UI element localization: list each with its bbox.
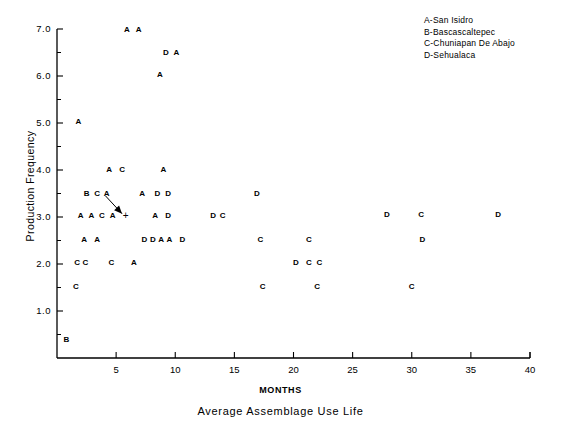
data-point: A [104, 166, 114, 174]
x-tick-label: 5 [101, 364, 131, 375]
data-point: A [134, 26, 144, 34]
y-tick-label: 1.0 [11, 305, 51, 316]
data-point: D [163, 212, 173, 220]
x-tick-label: 10 [160, 364, 190, 375]
data-point: A [129, 259, 139, 267]
y-tick-label: 6.0 [11, 70, 51, 81]
data-point: C [304, 236, 314, 244]
data-point: C [218, 212, 228, 220]
data-point: D [161, 49, 171, 57]
data-point: B [61, 336, 71, 344]
data-point: C [304, 259, 314, 267]
x-tick-label: 25 [338, 364, 368, 375]
x-tick-label: 30 [397, 364, 427, 375]
data-point: C [97, 212, 107, 220]
axes-lines [57, 29, 530, 358]
data-point: A [137, 190, 147, 198]
data-point: A [108, 212, 118, 220]
data-point: C [258, 283, 268, 291]
y-tick-label: 5.0 [11, 117, 51, 128]
data-point: C [80, 259, 90, 267]
data-point: D [252, 190, 262, 198]
data-point: C [106, 259, 116, 267]
data-point: A [164, 236, 174, 244]
data-point: C [407, 283, 417, 291]
data-point: C [416, 211, 426, 219]
data-point: C [312, 283, 322, 291]
data-point: A [171, 49, 181, 57]
y-tick-label: 7.0 [11, 23, 51, 34]
x-axis-title: MONTHS [0, 385, 561, 395]
data-point: C [117, 166, 127, 174]
data-point: A [122, 26, 132, 34]
data-point: B [82, 190, 92, 198]
data-point: D [153, 190, 163, 198]
data-point: C [71, 283, 81, 291]
highlight-marker: + [120, 211, 132, 221]
y-tick-label: 2.0 [11, 258, 51, 269]
data-point: A [73, 118, 83, 126]
x-tick-label: 20 [279, 364, 309, 375]
x-tick-label: 15 [219, 364, 249, 375]
data-point: A [79, 236, 89, 244]
data-point: A [102, 190, 112, 198]
x-axis-subtitle: Average Assemblage Use Life [0, 405, 561, 417]
data-point: D [291, 259, 301, 267]
data-point: A [86, 212, 96, 220]
data-point: A [92, 236, 102, 244]
x-tick-label: 35 [456, 364, 486, 375]
data-point: D [493, 211, 503, 219]
data-point: A [158, 166, 168, 174]
data-point: A [76, 212, 86, 220]
data-point: A [150, 212, 160, 220]
data-point: D [382, 211, 392, 219]
data-point: A [155, 71, 165, 79]
data-point: C [315, 259, 325, 267]
y-tick-label: 4.0 [11, 164, 51, 175]
y-tick-label: 3.0 [11, 211, 51, 222]
x-tick-label: 40 [515, 364, 545, 375]
data-point: D [163, 190, 173, 198]
data-point: D [417, 236, 427, 244]
data-point: C [255, 236, 265, 244]
data-point: D [177, 236, 187, 244]
scatter-plot-figure: A-San Isidro B-Bascascaltepec C-Chuniapa… [0, 0, 561, 441]
